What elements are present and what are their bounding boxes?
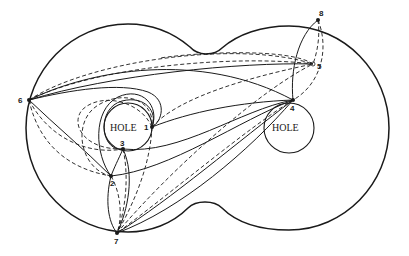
svg-text:5: 5 [317, 62, 322, 71]
svg-text:3: 3 [120, 139, 125, 148]
node-8: 8 [316, 9, 324, 22]
svg-text:6: 6 [18, 96, 23, 105]
edge-loop-2-around-hole [99, 94, 154, 176]
svg-text:8: 8 [319, 9, 324, 18]
hole-left-label: HOLE [110, 122, 137, 133]
node-7: 7 [114, 231, 119, 246]
surface-graph-diagram: 1 2 3 4 5 6 7 8 HOLE HOLE [0, 0, 409, 256]
svg-text:1: 1 [144, 123, 149, 132]
svg-text:4: 4 [290, 104, 295, 113]
edge-3-2 [111, 149, 123, 176]
svg-text:7: 7 [114, 237, 119, 246]
edge-6-5-a [29, 54, 313, 100]
edge-1-5 [152, 64, 313, 127]
edge-dashed-loop-left [82, 98, 152, 176]
edge-8-5 [313, 20, 319, 64]
outer-boundary [26, 24, 389, 232]
svg-text:2: 2 [110, 179, 115, 188]
edge-4-7-a [117, 100, 293, 233]
hole-right-label: HOLE [272, 122, 299, 133]
edge-6-5-b [29, 61, 313, 100]
edge-3-7 [117, 149, 126, 233]
